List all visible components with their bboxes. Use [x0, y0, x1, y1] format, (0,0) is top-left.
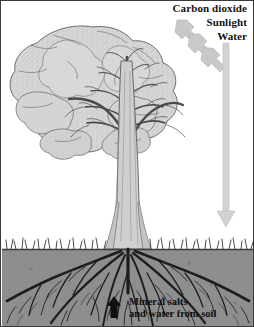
label-carbon-dioxide: Carbon dioxide: [173, 2, 247, 14]
arrow-water: [201, 48, 225, 72]
label-sunlight: Sunlight: [206, 16, 247, 28]
soil-caption-line2: and water from soil: [129, 308, 216, 320]
soil-uptake-caption: Mineral salts and water from soil: [129, 296, 216, 319]
photosynthesis-tree-diagram: Carbon dioxide Sunlight Water Mineral sa…: [0, 0, 254, 327]
tree-canopy: [10, 26, 177, 160]
diagram-canvas: [1, 1, 254, 327]
label-water: Water: [217, 30, 247, 42]
soil-caption-line1: Mineral salts: [129, 296, 216, 308]
